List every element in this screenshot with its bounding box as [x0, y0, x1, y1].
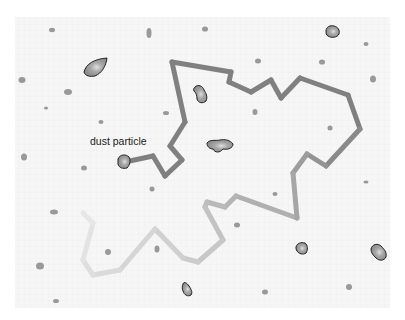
small-particle [234, 223, 240, 228]
small-particle [253, 109, 258, 115]
small-particle [262, 290, 268, 295]
particle-top-right [326, 26, 339, 38]
small-particle [44, 107, 48, 110]
small-particle [328, 126, 333, 131]
small-particle [64, 89, 72, 95]
small-particle [105, 249, 111, 255]
small-particle [163, 111, 169, 115]
grid-overlay [15, 17, 390, 308]
small-particle [202, 26, 208, 31]
small-particle [346, 284, 352, 290]
small-particle [370, 76, 376, 83]
brownian-motion-diagram: dust particle [0, 0, 405, 320]
small-particle [364, 42, 369, 46]
small-particle [53, 299, 59, 303]
small-particle [147, 28, 152, 38]
small-particle [50, 210, 58, 215]
small-particle [155, 246, 160, 253]
small-particle [19, 77, 26, 83]
small-particle [255, 59, 261, 64]
small-particle [81, 166, 87, 171]
small-particle [273, 192, 278, 196]
small-particle [21, 154, 27, 161]
diagram-canvas [0, 0, 405, 320]
small-particle [150, 187, 155, 192]
small-particle [49, 28, 55, 32]
small-particle [364, 181, 369, 184]
small-particle [319, 59, 325, 64]
particle-dust [118, 155, 130, 168]
particle-lower-right-mid [296, 243, 307, 254]
small-particle [99, 120, 104, 124]
dust-particle-label: dust particle [90, 135, 147, 147]
small-particle [36, 263, 44, 270]
